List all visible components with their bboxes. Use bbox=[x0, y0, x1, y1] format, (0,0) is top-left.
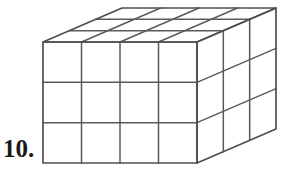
grid-lines bbox=[43, 8, 276, 163]
figure-container: 10. bbox=[0, 0, 294, 173]
rectangular-prism-figure bbox=[0, 0, 294, 173]
prism-drawing-group bbox=[43, 8, 276, 163]
problem-number-label: 10. bbox=[3, 136, 34, 161]
